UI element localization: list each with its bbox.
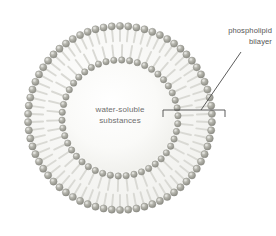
lumen-label: water-soluble substances	[62, 104, 178, 126]
phospholipid-bilayer-label: phospholipid bilayer	[186, 25, 272, 47]
callout-label-line1: phospholipid	[186, 25, 272, 36]
callout-label-line2: bilayer	[186, 36, 272, 47]
lumen-label-line2: substances	[62, 115, 178, 126]
liposome-figure: water-soluble substances phospholipid bi…	[0, 0, 276, 236]
lumen-label-line1: water-soluble	[62, 104, 178, 115]
